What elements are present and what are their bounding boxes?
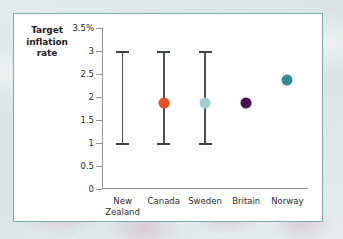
error-bar-cap-lower <box>157 143 170 145</box>
chart-figure-frame: Target inflation rate 00.511.522.533.5% … <box>13 13 323 222</box>
y-axis-tick-label: 2 <box>89 92 94 102</box>
data-point-marker <box>158 97 169 108</box>
error-bar-cap-lower <box>199 143 212 145</box>
x-axis-category-label: Canada <box>148 196 180 207</box>
error-bar-cap-lower <box>116 143 129 145</box>
x-axis-category-label: New Zealand <box>105 196 140 217</box>
x-axis-category-label: Sweden <box>188 196 222 207</box>
y-axis-tick-mark <box>96 28 102 29</box>
x-axis-category-label: Britain <box>232 196 260 207</box>
y-axis-tick-label: 0.5 <box>80 161 94 171</box>
y-axis-tick-mark <box>96 97 102 98</box>
x-axis-line <box>102 188 308 189</box>
x-axis-category-label: Norway <box>271 196 303 207</box>
y-axis-tick-label: 1.5 <box>80 115 94 125</box>
error-bar-line <box>122 51 124 143</box>
y-axis-tick-mark <box>96 143 102 144</box>
error-bar-cap-upper <box>116 51 129 53</box>
y-axis-tick-mark <box>96 166 102 167</box>
data-point-marker <box>200 97 211 108</box>
y-axis-tick-mark <box>96 51 102 52</box>
y-axis-title: Target inflation rate <box>16 25 78 60</box>
y-axis-tick-label: 2.5 <box>80 69 94 79</box>
y-axis-tick-mark <box>96 189 102 190</box>
error-bar-cap-upper <box>157 51 170 53</box>
y-axis-line <box>102 28 103 189</box>
data-point-marker <box>282 74 293 85</box>
y-axis-tick-mark <box>96 120 102 121</box>
data-point-marker <box>241 97 252 108</box>
plot-canvas: 00.511.522.533.5% New ZealandCanadaSwede… <box>102 28 308 189</box>
y-axis-tick-label: 3 <box>89 46 94 56</box>
error-bar-cap-upper <box>199 51 212 53</box>
y-axis-tick-label: 3.5% <box>72 23 94 33</box>
chart-plot-region: Target inflation rate 00.511.522.533.5% … <box>14 14 322 221</box>
y-axis-tick-label: 0 <box>89 184 94 194</box>
y-axis-tick-label: 1 <box>89 138 94 148</box>
y-axis-tick-mark <box>96 74 102 75</box>
